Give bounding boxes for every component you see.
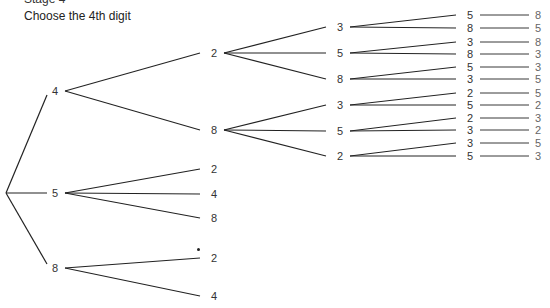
tree-leaf-digit: 2 xyxy=(535,125,541,136)
tree-leaf-digit: 5 xyxy=(535,88,541,99)
tree-leaf-digit: 5 xyxy=(535,74,541,85)
tree-node-digit: 2 xyxy=(467,88,473,99)
branch-line xyxy=(350,27,456,28)
branch-line xyxy=(65,193,200,218)
tree-node-digit: 8 xyxy=(211,125,217,136)
tree-node-digit: 2 xyxy=(211,253,217,264)
tree-node-digit: 2 xyxy=(467,113,473,124)
tree-node-digit: 3 xyxy=(337,100,343,111)
tree-node-digit: 2 xyxy=(211,164,217,175)
tree-leaf-digit: 5 xyxy=(535,23,541,34)
branch-line xyxy=(6,193,47,264)
branch-line xyxy=(350,53,456,54)
branch-line xyxy=(350,67,456,79)
branch-line xyxy=(350,130,456,131)
branch-line xyxy=(65,169,200,193)
branch-line xyxy=(65,193,200,194)
tree-node-digit: 5 xyxy=(337,48,343,59)
branch-line xyxy=(350,15,456,27)
branch-line xyxy=(224,130,326,131)
tree-node-digit: 2 xyxy=(211,48,217,59)
tree-node-digit: 2 xyxy=(337,151,343,162)
tree-leaf-digit: 8 xyxy=(535,37,541,48)
branch-line xyxy=(224,130,326,156)
tree-leaf-digit: 3 xyxy=(535,113,541,124)
branch-line xyxy=(65,91,200,130)
tree-node-digit: 4 xyxy=(211,189,217,200)
branch-line xyxy=(350,93,456,105)
branch-line xyxy=(224,27,326,53)
tree-node-digit: 3 xyxy=(467,125,473,136)
tree-node-digit: 3 xyxy=(467,138,473,149)
tree-node-digit: 5 xyxy=(467,151,473,162)
branch-line xyxy=(350,118,456,131)
tree-node-digit: 8 xyxy=(211,213,217,224)
tree-leaf-digit: 3 xyxy=(535,151,541,162)
tree-node-digit: 5 xyxy=(467,62,473,73)
branch-line xyxy=(65,258,200,268)
branch-line xyxy=(350,42,456,53)
tree-node-digit: 5 xyxy=(467,10,473,21)
branch-line xyxy=(65,53,200,91)
branch-line xyxy=(224,105,326,130)
branch-line xyxy=(224,53,326,79)
tree-leaf-digit: 5 xyxy=(535,138,541,149)
tree-leaf-digit: 2 xyxy=(535,100,541,111)
tree-node-digit: 8 xyxy=(467,23,473,34)
tree-node-digit: 8 xyxy=(337,74,343,85)
branch-line xyxy=(65,268,200,296)
tree-node-digit: 3 xyxy=(467,37,473,48)
branch-line xyxy=(6,95,47,193)
tree-node-digit: 5 xyxy=(337,126,343,137)
tree-node-digit: 4 xyxy=(52,86,58,97)
tree-node-digit: 8 xyxy=(467,49,473,60)
tree-node-digit: 4 xyxy=(211,291,217,302)
tree-leaf-digit: 8 xyxy=(535,10,541,21)
stray-mark xyxy=(197,248,200,251)
tree-node-digit: 8 xyxy=(52,263,58,274)
tree-node-digit: 5 xyxy=(467,100,473,111)
tree-leaf-digit: 3 xyxy=(535,62,541,73)
tree-node-digit: 3 xyxy=(467,74,473,85)
tree-leaf-digit: 3 xyxy=(535,49,541,60)
branch-line xyxy=(350,143,456,156)
tree-node-digit: 3 xyxy=(337,22,343,33)
tree-node-digit: 5 xyxy=(52,188,58,199)
